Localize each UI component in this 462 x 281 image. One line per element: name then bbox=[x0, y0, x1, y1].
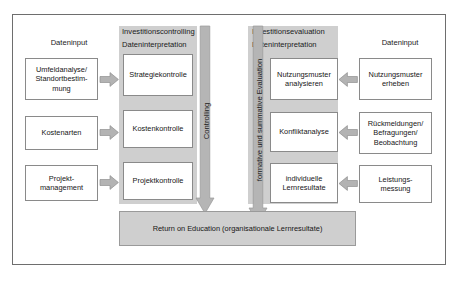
right-input-box-3-line-2: messung bbox=[378, 184, 412, 193]
left-input-box-1-line-3: mung bbox=[35, 84, 87, 93]
right-panel-header-title: Investitionsevaluation bbox=[252, 27, 352, 37]
right-evaluation-box-1-line-2: analysieren bbox=[277, 79, 331, 88]
left-control-box-1: Strategiekontrolle bbox=[123, 54, 193, 96]
left-arrow-3 bbox=[100, 175, 119, 190]
left-column-header: Dateninput bbox=[25, 38, 113, 47]
left-control-box-2-line-1: Kostenkontrolle bbox=[133, 124, 184, 133]
right-input-box-2-line-2: Befragungen/ bbox=[368, 128, 423, 137]
evaluation-label-text: formative und summative Evaluation bbox=[255, 59, 264, 181]
right-input-box-2-line-3: Beobachtung bbox=[368, 138, 423, 147]
diagram-canvas: Investitionscontrolling Dateninterpretat… bbox=[0, 0, 462, 281]
right-evaluation-box-3-line-2: Lernresultate bbox=[282, 183, 325, 192]
result-bar: Return on Education (organisationale Ler… bbox=[119, 211, 356, 246]
left-input-box-3-line-1: Projekt- bbox=[40, 174, 83, 183]
left-input-box-3-line-2: management bbox=[40, 183, 83, 192]
right-arrow-2 bbox=[339, 125, 358, 140]
left-arrow-2 bbox=[100, 125, 119, 140]
right-evaluation-box-1-line-1: Nutzungsmuster bbox=[277, 70, 331, 79]
right-input-box-3-line-1: Leistungs- bbox=[378, 175, 412, 184]
controlling-vertical-arrow-label: Controlling bbox=[196, 86, 214, 156]
result-bar-line-2: (organisationale Lernresultate) bbox=[222, 224, 322, 233]
controlling-label-text: Controlling bbox=[202, 103, 211, 139]
right-column-header: Dateninput bbox=[356, 38, 444, 47]
left-control-box-1-line-1: Strategiekontrolle bbox=[129, 70, 187, 79]
right-arrow-1 bbox=[339, 72, 358, 87]
right-arrow-3 bbox=[339, 176, 358, 191]
right-input-box-3: Leistungs- messung bbox=[359, 165, 432, 203]
left-input-box-1: Umfeldanalyse/ Standortbestim- mung bbox=[25, 58, 98, 100]
right-evaluation-box-3: individuelle Lernresultate bbox=[270, 163, 338, 203]
left-input-box-2: Kostenarten bbox=[25, 116, 98, 150]
left-control-box-2: Kostenkontrolle bbox=[123, 110, 193, 148]
right-input-box-1: Nutzungsmuster erheben bbox=[359, 58, 432, 100]
right-evaluation-box-2: Konfliktanalyse bbox=[270, 112, 338, 152]
evaluation-vertical-arrow-label: formative und summative Evaluation bbox=[249, 30, 267, 210]
right-evaluation-box-3-line-1: individuelle bbox=[282, 174, 325, 183]
right-evaluation-box-1: Nutzungsmuster analysieren bbox=[270, 58, 338, 100]
right-evaluation-box-2-line-1: Konfliktanalyse bbox=[279, 127, 329, 136]
left-input-box-2-line-1: Kostenarten bbox=[42, 128, 82, 137]
left-input-box-1-line-2: Standortbestim- bbox=[35, 74, 87, 83]
left-input-box-3: Projekt- management bbox=[25, 165, 98, 201]
left-input-box-1-line-1: Umfeldanalyse/ bbox=[35, 65, 87, 74]
left-control-box-3-line-1: Projektkontrolle bbox=[133, 176, 184, 185]
right-input-box-1-line-1: Nutzungsmuster bbox=[369, 70, 423, 79]
right-panel-header-subtitle: Dateninterpretation bbox=[252, 40, 352, 50]
right-input-box-2: Rückmeldungen/ Befragungen/ Beobachtung bbox=[359, 112, 432, 154]
left-arrow-1 bbox=[100, 72, 119, 87]
right-input-box-2-line-1: Rückmeldungen/ bbox=[368, 119, 423, 128]
result-bar-line-1: Return on Education bbox=[153, 224, 220, 233]
left-control-box-3: Projektkontrolle bbox=[123, 162, 193, 200]
right-input-box-1-line-2: erheben bbox=[369, 79, 423, 88]
